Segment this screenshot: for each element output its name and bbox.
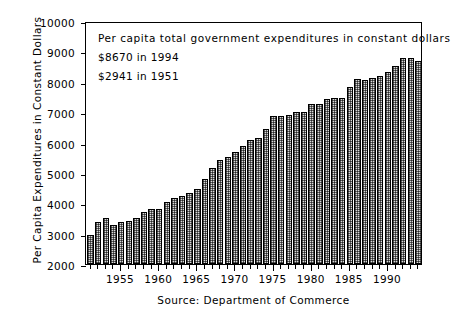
bar-1971 xyxy=(240,146,246,264)
bar-1976 xyxy=(278,116,284,264)
bar-1956 xyxy=(126,221,132,264)
chart-container: Per Capita Expenditures in Constant Doll… xyxy=(0,0,451,321)
x-tick-mark-1962 xyxy=(173,265,174,269)
x-tick-mark-1989 xyxy=(379,265,380,269)
bar-1983 xyxy=(331,98,337,264)
x-tick-mark-1961 xyxy=(166,265,167,269)
bar-1963 xyxy=(179,196,185,264)
x-tick-mark-1994 xyxy=(417,265,418,269)
bar-1969 xyxy=(225,157,231,264)
x-tick-mark-1972 xyxy=(250,265,251,269)
x-tick-mark-1985 xyxy=(349,265,350,271)
bar-1993 xyxy=(408,58,414,264)
x-tick-mark-1993 xyxy=(410,265,411,269)
bar-1964 xyxy=(186,193,192,264)
bar-1953 xyxy=(103,218,109,264)
bar-1962 xyxy=(171,198,177,264)
bar-1991 xyxy=(392,66,398,264)
bar-1960 xyxy=(156,209,162,264)
x-tick-label-1985: 1985 xyxy=(335,273,363,285)
bar-1990 xyxy=(385,72,391,264)
x-tick-mark-1983 xyxy=(334,265,335,269)
bar-1951 xyxy=(87,235,93,264)
x-tick-label-1955: 1955 xyxy=(106,273,134,285)
x-tick-mark-1957 xyxy=(135,265,136,269)
y-tick-5000: 5000 xyxy=(47,169,86,181)
bar-1985 xyxy=(347,87,353,264)
bar-1968 xyxy=(217,160,223,264)
x-tick-mark-1959 xyxy=(151,265,152,269)
x-tick-mark-1968 xyxy=(219,265,220,269)
bar-1973 xyxy=(255,138,261,264)
y-tick-3000: 3000 xyxy=(47,230,86,242)
x-tick-mark-1987 xyxy=(364,265,365,269)
bar-1959 xyxy=(148,209,154,264)
x-tick-mark-1966 xyxy=(204,265,205,269)
x-tick-mark-1991 xyxy=(395,265,396,269)
y-tick-6000: 6000 xyxy=(47,139,86,151)
x-tick-mark-1960 xyxy=(158,265,159,271)
y-tick-4000: 4000 xyxy=(47,199,86,211)
annotation-line-2: $8670 in 1994 xyxy=(98,48,403,67)
bar-1980 xyxy=(308,104,314,264)
x-tick-mark-1963 xyxy=(181,265,182,269)
x-tick-mark-1976 xyxy=(280,265,281,269)
bar-1982 xyxy=(324,99,330,264)
x-tick-mark-1974 xyxy=(265,265,266,269)
annotation-line-3: $2941 in 1951 xyxy=(98,67,403,86)
x-tick-mark-1984 xyxy=(341,265,342,269)
x-tick-mark-1953 xyxy=(105,265,106,269)
x-tick-mark-1980 xyxy=(311,265,312,271)
x-tick-mark-1990 xyxy=(387,265,388,271)
x-tick-label-1970: 1970 xyxy=(220,273,248,285)
bar-1961 xyxy=(164,202,170,264)
x-tick-mark-1981 xyxy=(318,265,319,269)
y-axis-title: Per Capita Expenditures in Constant Doll… xyxy=(31,15,43,265)
x-tick-mark-1986 xyxy=(356,265,357,269)
x-tick-mark-1970 xyxy=(234,265,235,271)
x-tick-mark-1971 xyxy=(242,265,243,269)
x-tick-mark-1992 xyxy=(402,265,403,269)
bar-1967 xyxy=(209,168,215,264)
x-tick-mark-1973 xyxy=(257,265,258,269)
x-axis-ticks: 19551960196519701975198019851990 xyxy=(85,265,422,317)
y-tick-10000: 10000 xyxy=(40,17,86,29)
bar-1989 xyxy=(377,76,383,264)
x-tick-mark-1955 xyxy=(120,265,121,271)
bar-1984 xyxy=(339,98,345,264)
x-tick-mark-1978 xyxy=(295,265,296,269)
bar-1981 xyxy=(316,104,322,264)
bar-1986 xyxy=(354,79,360,264)
bar-1994 xyxy=(415,61,421,264)
x-tick-mark-1952 xyxy=(97,265,98,269)
bar-1952 xyxy=(95,222,101,264)
x-tick-mark-1977 xyxy=(288,265,289,269)
x-tick-label-1965: 1965 xyxy=(182,273,210,285)
x-tick-mark-1964 xyxy=(189,265,190,269)
bar-1977 xyxy=(286,115,292,264)
bar-1974 xyxy=(263,129,269,264)
x-tick-mark-1975 xyxy=(273,265,274,271)
bar-1975 xyxy=(270,116,276,264)
x-tick-mark-1982 xyxy=(326,265,327,269)
bar-1954 xyxy=(110,225,116,264)
bar-1957 xyxy=(133,218,139,264)
annotation-textbox: Per capita total government expenditures… xyxy=(98,29,403,86)
plot-area: 1000090008000700060005000400030002000 Pe… xyxy=(85,22,422,265)
y-tick-7000: 7000 xyxy=(47,108,86,120)
x-tick-mark-1988 xyxy=(372,265,373,269)
bar-1988 xyxy=(369,78,375,264)
x-tick-mark-1969 xyxy=(227,265,228,269)
bar-1992 xyxy=(400,58,406,264)
x-tick-mark-1979 xyxy=(303,265,304,269)
bar-1978 xyxy=(293,112,299,264)
x-tick-mark-1951 xyxy=(90,265,91,269)
bar-1958 xyxy=(141,212,147,264)
x-tick-mark-1965 xyxy=(196,265,197,271)
source-caption: Source: Department of Commerce xyxy=(85,294,422,306)
bar-1972 xyxy=(247,140,253,264)
x-tick-mark-1954 xyxy=(112,265,113,269)
x-tick-label-1975: 1975 xyxy=(259,273,287,285)
y-tick-8000: 8000 xyxy=(47,78,86,90)
bar-1955 xyxy=(118,222,124,264)
